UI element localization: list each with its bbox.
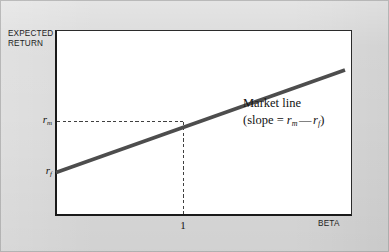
formula-operator: — [298,113,314,127]
formula-term1-subscript: m [292,119,298,128]
annotation-formula: (slope = rm—rf) [243,112,324,132]
x-axis-title: BETA [318,219,340,228]
formula-prefix: (slope = [243,113,287,127]
formula-suffix: ) [320,113,324,127]
x-tick-label-one: 1 [174,219,192,231]
figure-page: EXPECTED RETURN BETA rm rf 1 Market line… [0,0,389,252]
y-axis-title: EXPECTED RETURN [8,29,56,48]
y-tick-label-rm: rm [28,113,52,127]
y-tick-label-rf: rf [28,164,52,178]
y-tick-rm-subscript: m [47,119,52,127]
y-tick-rf-subscript: f [50,170,52,178]
annotation-title: Market line [243,96,324,111]
market-line-annotation: Market line (slope = rm—rf) [243,96,324,132]
